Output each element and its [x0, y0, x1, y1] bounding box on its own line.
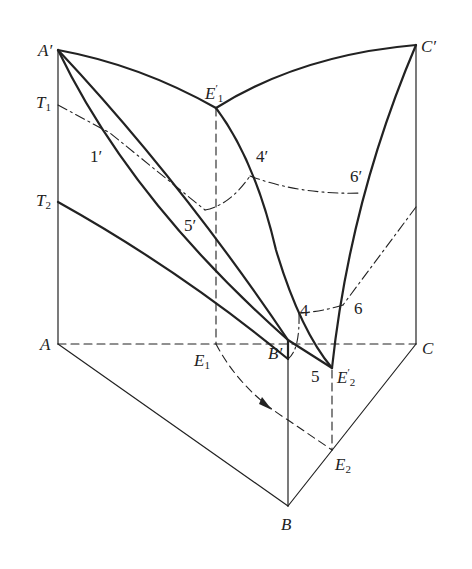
label-e2-prime-base: E [337, 368, 347, 387]
label-e2-prime-sub: 2 [350, 376, 356, 388]
diagram-lines [0, 0, 472, 569]
phase-diagram: A′ C′ E′1 T1 1′ 4′ 6′ T2 5′ 4 6 A C B′ E… [0, 0, 472, 569]
label-b-prime: B′ [268, 345, 282, 362]
label-e2: E2 [335, 456, 351, 475]
label-e1-prime-base: E [205, 84, 215, 103]
label-c: C [422, 340, 433, 357]
label-e1-prime-sub: 1 [218, 92, 224, 104]
label-b: B [281, 516, 291, 533]
label-e2-base: E [335, 455, 345, 474]
label-e1: E1 [194, 352, 210, 371]
label-point-6-prime: 6′ [350, 168, 362, 185]
label-point-4-prime: 4′ [256, 148, 268, 165]
label-e2-prime: E′2 [337, 367, 355, 388]
label-t2-sub: 2 [45, 199, 51, 211]
label-point-5: 5 [311, 368, 320, 385]
label-c-prime: C′ [421, 38, 436, 55]
label-point-6: 6 [354, 300, 363, 317]
label-point-1-prime: 1′ [90, 148, 102, 165]
label-point-4: 4 [300, 302, 309, 319]
arrow-icon [259, 397, 272, 410]
label-t2: T2 [36, 192, 51, 211]
label-t1-sub: 1 [45, 101, 51, 113]
label-e1-prime: E′1 [205, 83, 223, 104]
phase-boundaries [58, 45, 416, 368]
label-a-prime: A′ [38, 42, 52, 59]
label-point-5-prime: 5′ [184, 217, 196, 234]
prism-frame [58, 45, 416, 506]
label-t1: T1 [36, 94, 51, 113]
label-a: A [40, 336, 50, 353]
label-e1-base: E [194, 351, 204, 370]
label-e1-sub: 1 [204, 359, 210, 371]
label-e2-sub: 2 [345, 463, 351, 475]
